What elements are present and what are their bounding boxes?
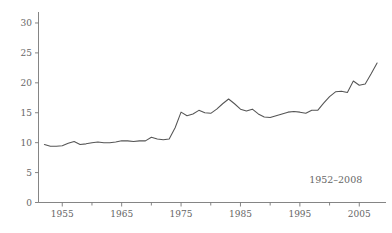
y-axis-ticks — [35, 23, 39, 203]
x-tick-label: 1985 — [229, 209, 252, 219]
data-series-line — [44, 63, 377, 146]
y-tick-label: 20 — [21, 78, 33, 88]
line-chart: 051015202530 195519651975198519952005 19… — [0, 0, 392, 233]
chart-container: 051015202530 195519651975198519952005 19… — [0, 0, 392, 233]
x-axis-ticks — [62, 203, 359, 207]
x-tick-label: 1995 — [288, 209, 311, 219]
y-tick-label: 5 — [26, 168, 32, 178]
range-annotation: 1952–2008 — [309, 174, 362, 185]
y-tick-label: 10 — [21, 138, 33, 148]
y-tick-label: 30 — [21, 18, 33, 28]
x-tick-label: 2005 — [348, 209, 371, 219]
y-tick-label: 15 — [21, 108, 33, 118]
y-tick-label: 0 — [26, 198, 32, 208]
x-tick-label: 1965 — [110, 209, 133, 219]
x-axis-tick-labels: 195519651975198519952005 — [51, 209, 371, 219]
y-axis-tick-labels: 051015202530 — [21, 18, 33, 208]
x-tick-label: 1955 — [51, 209, 74, 219]
x-tick-label: 1975 — [170, 209, 193, 219]
y-tick-label: 25 — [21, 48, 33, 58]
